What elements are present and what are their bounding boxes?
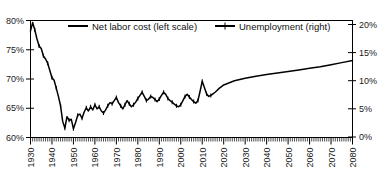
chart-legend: Net labor cost (left scale) Unemployment… — [68, 21, 330, 32]
right-tick-label-15: 15% — [359, 48, 377, 58]
x-tick-label-1960: 1960 — [90, 148, 100, 168]
x-tick-label-1940: 1940 — [47, 148, 57, 168]
left-tick-label-75: 75% — [6, 45, 24, 55]
right-tick-label-20: 20% — [359, 20, 377, 30]
left-tick-label-80: 80% — [6, 16, 24, 26]
chart-container: 80% 75% 70% 65% 60% 20% 15% 10% 5% 0% 19… — [0, 0, 391, 181]
right-tick-label-10: 10% — [359, 76, 377, 86]
x-tick-label-2010: 2010 — [198, 148, 208, 168]
x-tick-label-1930: 1930 — [26, 148, 36, 168]
x-tick-label-2050: 2050 — [284, 148, 294, 168]
x-tick-label-2020: 2020 — [219, 148, 229, 168]
left-tick-label-60: 60% — [6, 133, 24, 143]
left-tick-label-70: 70% — [6, 74, 24, 84]
right-tick-label-0: 0% — [359, 132, 372, 142]
x-tick-label-1950: 1950 — [69, 148, 79, 168]
legend-label-unemployment: Unemployment (right) — [239, 21, 330, 32]
x-tick-label-2060: 2060 — [305, 148, 315, 168]
series-markers — [31, 28, 211, 131]
right-axis-labels: 20% 15% 10% 5% 0% — [359, 20, 377, 143]
legend-label-net-labor-cost: Net labor cost (left scale) — [92, 21, 197, 32]
series-group — [31, 23, 353, 131]
left-tick-label-65: 65% — [6, 103, 24, 113]
x-tick-label-1980: 1980 — [133, 148, 143, 168]
line-chart: 80% 75% 70% 65% 60% 20% 15% 10% 5% 0% 19… — [0, 0, 391, 181]
x-tick-label-1970: 1970 — [112, 148, 122, 168]
x-axis-labels: 1930194019501960197019801990200020102020… — [26, 148, 358, 168]
right-tick-label-5: 5% — [359, 104, 372, 114]
x-axis-ticks — [31, 138, 353, 145]
x-tick-label-2070: 2070 — [327, 148, 337, 168]
x-tick-label-1990: 1990 — [155, 148, 165, 168]
x-tick-label-2000: 2000 — [176, 148, 186, 168]
legend-swatch-unemployment — [215, 23, 235, 30]
left-axis-labels: 80% 75% 70% 65% 60% — [6, 16, 24, 143]
plot-frame — [31, 21, 353, 138]
x-tick-label-2080: 2080 — [348, 148, 358, 168]
x-tick-label-2030: 2030 — [241, 148, 251, 168]
x-tick-label-2040: 2040 — [262, 148, 272, 168]
series-line-unemployment — [31, 23, 353, 129]
